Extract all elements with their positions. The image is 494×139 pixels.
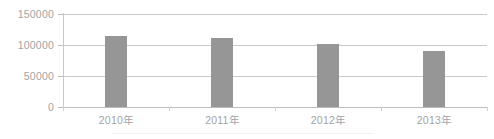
y-tick-label-50000: 50000 bbox=[0, 71, 54, 81]
y-axis-labels: 150000 100000 50000 0 bbox=[0, 0, 54, 139]
bar-slot-2013 bbox=[381, 14, 487, 107]
y-tick-label-150000: 150000 bbox=[0, 9, 54, 19]
bottom-edge-artifact bbox=[112, 133, 374, 134]
bar-2010[interactable] bbox=[105, 36, 127, 107]
bar-2012[interactable] bbox=[317, 44, 339, 107]
x-tick-mark-1 bbox=[169, 107, 170, 111]
y-tick-label-100000: 100000 bbox=[0, 40, 54, 50]
x-tick-label-2011: 2011年 bbox=[205, 114, 239, 126]
x-tick-mark-4 bbox=[487, 107, 488, 111]
bar-2013[interactable] bbox=[423, 51, 445, 107]
x-tick-label-2013: 2013年 bbox=[417, 114, 451, 126]
y-tick-label-0: 0 bbox=[0, 102, 54, 112]
bars-layer bbox=[63, 14, 487, 107]
x-tick-mark-2 bbox=[275, 107, 276, 111]
bar-slot-2010 bbox=[63, 14, 169, 107]
x-tick-label-2010: 2010年 bbox=[99, 114, 133, 126]
x-tick-label-2012: 2012年 bbox=[311, 114, 345, 126]
bar-slot-2012 bbox=[275, 14, 381, 107]
bar-chart: 150000 100000 50000 0 2010 bbox=[0, 0, 494, 139]
bar-slot-2011 bbox=[169, 14, 275, 107]
bar-2011[interactable] bbox=[211, 38, 233, 107]
x-tick-mark-3 bbox=[381, 107, 382, 111]
x-tick-mark-0 bbox=[63, 107, 64, 111]
